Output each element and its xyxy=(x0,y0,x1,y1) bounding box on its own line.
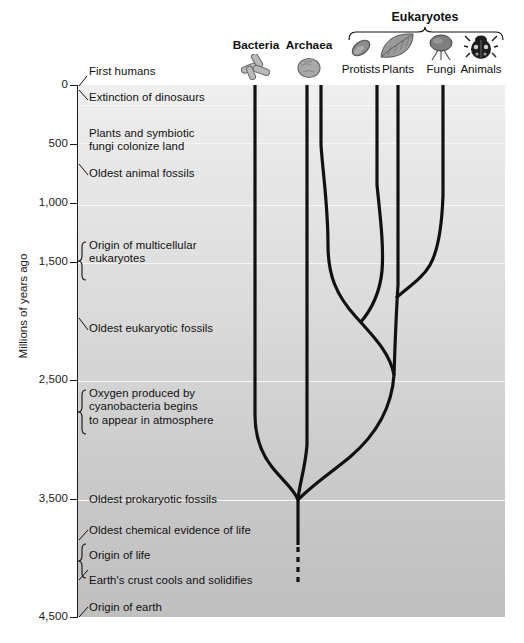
event-origin-of-earth: Origin of earth xyxy=(89,601,162,614)
axis-tick xyxy=(70,203,78,204)
axis-tick-label-500: 500 xyxy=(16,137,68,149)
axis-tick-label-4500: 4,500 xyxy=(16,610,68,622)
fungus-mushroom-icon xyxy=(425,33,457,61)
bacteria-rods-icon xyxy=(239,54,273,80)
event-oxygen-cyanobacteria: Oxygen produced by cyanobacteria begins … xyxy=(89,387,214,427)
event-earth-crust-cools: Earth's crust cools and solidifies xyxy=(89,574,252,587)
branch-animals xyxy=(396,85,443,298)
event-oldest-animal-fossils: Oldest animal fossils xyxy=(89,167,195,180)
plant-leaf-icon xyxy=(377,31,419,61)
axis-tick-label-1000: 1,000 xyxy=(16,196,68,208)
axis-tick xyxy=(70,262,78,263)
axis-tick xyxy=(70,85,78,86)
group-label-eukaryotes: Eukaryotes xyxy=(392,10,459,24)
branch-bacteria xyxy=(255,85,298,500)
taxon-label-bacteria: Bacteria xyxy=(233,38,280,52)
branch-archaea xyxy=(298,85,307,500)
event-origin-of-life: Origin of life xyxy=(89,549,150,562)
taxon-label-protists: Protists xyxy=(342,62,381,75)
protist-icon xyxy=(346,35,376,61)
taxon-label-plants: Plants xyxy=(382,62,414,75)
axis-tick xyxy=(70,499,78,500)
timeline-figure: 0 500 1,000 1,500 2,500 3,500 4,500 Mill… xyxy=(0,0,524,643)
archaea-cell-icon xyxy=(294,54,324,80)
event-oldest-eukaryotic-fossils: Oldest eukaryotic fossils xyxy=(89,322,213,335)
event-oldest-chemical-evidence: Oldest chemical evidence of life xyxy=(89,524,251,537)
branch-protists xyxy=(321,85,394,375)
axis-tick-label-0: 0 xyxy=(16,78,68,90)
y-axis-line xyxy=(77,85,78,618)
axis-tick xyxy=(70,144,78,145)
event-plants-fungi-land: Plants and symbiotic fungi colonize land xyxy=(89,127,194,154)
axis-tick xyxy=(70,380,78,381)
axis-tick-label-3500: 3,500 xyxy=(16,492,68,504)
event-dinosaur-extinction: Extinction of dinosaurs xyxy=(89,91,205,104)
branch-fungi xyxy=(394,85,398,375)
event-first-humans: First humans xyxy=(89,65,155,78)
taxon-label-fungi: Fungi xyxy=(426,62,455,75)
animal-beetle-icon xyxy=(464,33,498,61)
event-oldest-prokaryotic-fossils: Oldest prokaryotic fossils xyxy=(89,493,217,506)
axis-tick xyxy=(70,617,78,618)
y-axis-title: Millions of years ago xyxy=(17,221,29,391)
branch-eukaryote-stem xyxy=(298,375,394,500)
taxon-label-archaea: Archaea xyxy=(286,38,333,52)
event-multicellular-eukaryotes: Origin of multicellular eukaryotes xyxy=(89,239,197,266)
branch-plants xyxy=(360,85,383,323)
taxon-label-animals: Animals xyxy=(460,62,501,75)
